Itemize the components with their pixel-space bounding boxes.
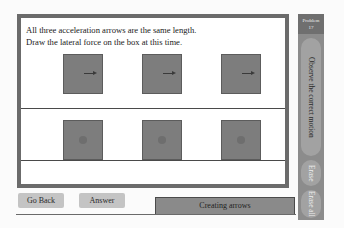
erase-all-label: Erase all — [307, 191, 316, 217]
drawing-box-2[interactable] — [142, 120, 182, 160]
acceleration-arrow-icon — [242, 73, 252, 74]
instruction-line-2: Draw the lateral force on the box at thi… — [26, 36, 196, 48]
problem-indicator: Problem 17 — [298, 14, 324, 34]
top-box-3[interactable] — [221, 54, 261, 94]
instruction-line-1: All three acceleration arrows are the sa… — [26, 24, 196, 36]
answer-button[interactable]: Answer — [79, 193, 125, 208]
ground-line — [21, 160, 285, 161]
mode-status-bar: Creating arrows — [155, 197, 295, 215]
problem-label: Problem — [298, 17, 324, 24]
center-dot-icon — [79, 136, 87, 144]
row-divider — [21, 108, 285, 109]
problem-panel: All three acceleration arrows are the sa… — [17, 14, 289, 188]
top-box-1[interactable] — [63, 54, 103, 94]
erase-all-button[interactable]: Erase all — [301, 190, 321, 218]
sidebar: Problem 17 Observe the correct motion Er… — [298, 14, 324, 220]
go-back-button[interactable]: Go Back — [18, 193, 64, 208]
erase-button[interactable]: Erase — [301, 160, 321, 186]
instructions: All three acceleration arrows are the sa… — [26, 24, 196, 48]
drawing-box-3[interactable] — [221, 120, 261, 160]
top-box-2[interactable] — [142, 54, 182, 94]
footer-divider — [16, 214, 296, 215]
problem-number: 17 — [298, 24, 324, 31]
acceleration-arrow-icon — [84, 73, 94, 74]
observe-motion-button[interactable]: Observe the correct motion — [301, 38, 321, 156]
observe-motion-label: Observe the correct motion — [307, 57, 316, 138]
center-dot-icon — [237, 136, 245, 144]
center-dot-icon — [158, 136, 166, 144]
drawing-box-1[interactable] — [63, 120, 103, 160]
erase-label: Erase — [307, 165, 316, 181]
acceleration-arrow-icon — [163, 73, 173, 74]
